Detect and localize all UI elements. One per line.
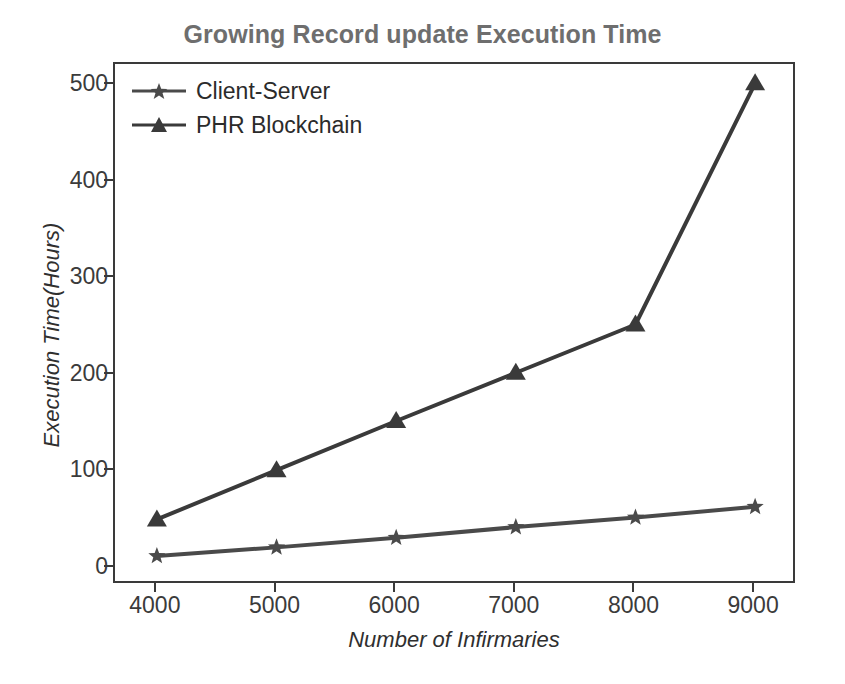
x-axis-tick-label: 8000 bbox=[583, 592, 683, 619]
x-axis-tick-mark bbox=[393, 583, 395, 592]
data-point-star bbox=[507, 518, 524, 534]
scan-artifact-text bbox=[0, 658, 845, 684]
y-axis-tick-mark bbox=[104, 565, 113, 567]
x-axis-tick-mark bbox=[752, 583, 754, 592]
x-axis-tick-label: 5000 bbox=[225, 592, 325, 619]
chart-legend: Client-Server PHR Blockchain bbox=[130, 70, 380, 142]
x-axis-tick-mark bbox=[632, 583, 634, 592]
chart-figure: Growing Record update Execution Time 010… bbox=[0, 0, 845, 684]
data-point-triangle bbox=[745, 73, 765, 90]
data-point-triangle bbox=[625, 315, 645, 332]
data-point-star bbox=[148, 547, 165, 563]
data-point-star bbox=[268, 538, 285, 554]
data-point-star bbox=[627, 508, 644, 524]
x-axis-tick-mark bbox=[274, 583, 276, 592]
y-axis-tick-mark bbox=[104, 179, 113, 181]
legend-item-phr-blockchain[interactable]: PHR Blockchain bbox=[130, 108, 380, 142]
triangle-marker-icon bbox=[130, 112, 188, 138]
y-axis-tick-mark bbox=[104, 82, 113, 84]
x-axis-tick-label: 7000 bbox=[464, 592, 564, 619]
x-axis-tick-label: 6000 bbox=[344, 592, 444, 619]
data-point-star bbox=[747, 498, 764, 514]
x-axis-tick-label: 4000 bbox=[105, 592, 205, 619]
plot-svg bbox=[115, 64, 797, 585]
legend-label-client-server: Client-Server bbox=[188, 78, 330, 105]
y-axis-tick-mark bbox=[104, 275, 113, 277]
y-axis-tick-mark bbox=[104, 372, 113, 374]
x-axis-tick-mark bbox=[154, 583, 156, 592]
legend-item-client-server[interactable]: Client-Server bbox=[130, 74, 380, 108]
chart-title: Growing Record update Execution Time bbox=[0, 20, 845, 49]
star-marker-icon bbox=[130, 78, 188, 104]
legend-label-phr-blockchain: PHR Blockchain bbox=[188, 112, 362, 139]
y-axis-label: Execution Time(Hours) bbox=[39, 75, 65, 595]
series-line bbox=[157, 507, 755, 556]
x-axis-tick-mark bbox=[513, 583, 515, 592]
series-line bbox=[157, 83, 755, 519]
y-axis-tick-mark bbox=[104, 468, 113, 470]
series-client-server bbox=[148, 498, 763, 563]
x-axis-tick-label: 9000 bbox=[703, 592, 803, 619]
x-axis-label: Number of Infirmaries bbox=[113, 627, 795, 653]
data-point-star bbox=[388, 529, 405, 545]
